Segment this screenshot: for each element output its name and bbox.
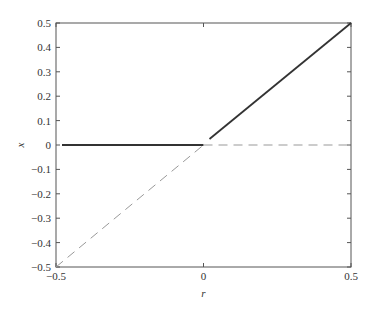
y-tick-label: 0.2 [37, 90, 51, 102]
stable-branch-line [210, 23, 352, 139]
y-tick-label: −0.4 [31, 237, 51, 249]
y-tick-label: 0.1 [37, 115, 51, 127]
y-tick-label: 0 [46, 139, 52, 151]
y-tick-label: −0.1 [31, 163, 51, 175]
x-tick-label: 0 [201, 270, 207, 282]
bifurcation-chart: 0.50.40.30.20.10−0.1−0.2−0.3−0.4−0.5−0.5… [0, 0, 370, 311]
y-tick-label: 0.4 [37, 41, 51, 53]
x-tick-label: 0.5 [344, 270, 358, 282]
y-axis-label: x [14, 142, 26, 148]
y-tick-label: −0.2 [31, 188, 51, 200]
x-tick-label: −0.5 [46, 270, 66, 282]
y-tick-label: 0.3 [37, 66, 51, 78]
y-tick-label: 0.5 [37, 17, 51, 29]
unstable-branch-line [56, 145, 204, 267]
x-axis-label: r [201, 287, 206, 299]
y-tick-label: −0.3 [31, 212, 51, 224]
